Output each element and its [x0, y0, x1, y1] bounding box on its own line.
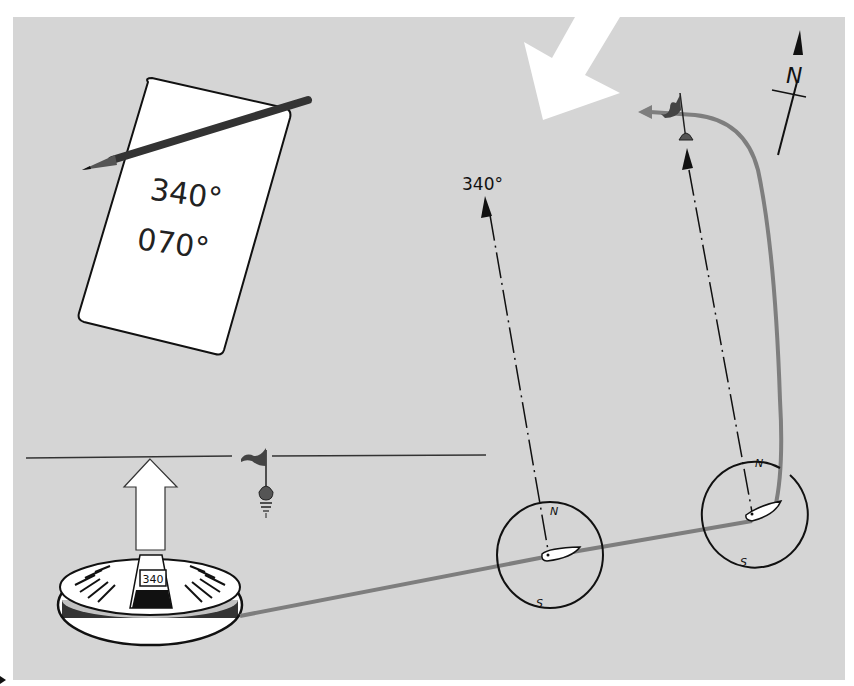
track-arrowhead-icon — [638, 105, 652, 119]
sight-arrow-icon — [124, 459, 177, 550]
north-arrow-label: N — [786, 63, 802, 88]
svg-text:N: N — [755, 457, 763, 470]
north-arrow-icon: N — [772, 30, 806, 155]
svg-text:S: S — [536, 597, 543, 610]
navigation-diagram: N 340° 070° — [0, 0, 854, 686]
boat-icon-1 — [542, 547, 580, 561]
track-curve — [650, 112, 781, 508]
svg-text:N: N — [550, 505, 558, 518]
flag-buoy-icon — [241, 448, 273, 518]
note-card: 340° 070° — [79, 78, 291, 355]
svg-text:S: S — [740, 556, 747, 569]
compass-reading: 340 — [143, 573, 164, 586]
page-marker-icon — [0, 676, 6, 684]
horizon-line-right — [272, 455, 486, 456]
bearing-line-2 — [682, 148, 752, 512]
horizon-line — [26, 456, 232, 458]
track-line-2 — [555, 521, 752, 555]
white-direction-arrow — [524, 17, 620, 120]
hand-bearing-compass: 340 — [58, 555, 242, 645]
bearing-label: 340° — [462, 174, 503, 194]
boat-icon-2 — [746, 501, 781, 521]
bearing-line-1 — [481, 196, 548, 550]
